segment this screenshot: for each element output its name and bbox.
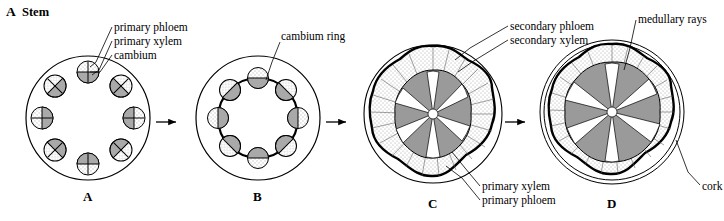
label-primary-phloem-bottom: primary phloem: [482, 194, 556, 207]
label-secondary-xylem: secondary xylem: [510, 34, 588, 47]
label-secondary-phloem: secondary phloem: [510, 20, 594, 33]
label-primary-xylem-top: primary xylem: [114, 35, 182, 48]
figure-root: A Stem: [0, 0, 724, 221]
panel-letter-b: B: [253, 189, 262, 205]
label-primary-xylem-bottom: primary xylem: [482, 180, 550, 193]
panel-letter-a: A: [83, 189, 92, 205]
label-cambium: cambium: [114, 49, 157, 62]
panel-b-stem: [196, 42, 320, 180]
panel-letter-c: C: [428, 196, 437, 212]
diagram-svg: [0, 0, 724, 221]
panel-letter-d: D: [607, 196, 616, 212]
panel-c-stem: [364, 26, 508, 200]
label-cambium-ring: cambium ring: [281, 30, 345, 43]
label-primary-phloem-top: primary phloem: [114, 21, 188, 34]
label-cork: cork: [702, 180, 722, 193]
label-medullary-rays: medullary rays: [638, 13, 707, 26]
